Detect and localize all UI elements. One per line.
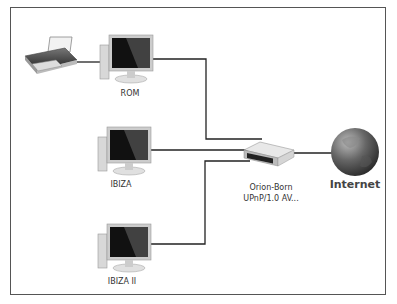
node-label-ibiza-ii: IBIZA II — [108, 277, 136, 286]
computer-icon-ibiza-ii[interactable] — [96, 222, 154, 274]
globe-icon[interactable] — [328, 126, 384, 178]
node-label-rom: ROM — [121, 89, 140, 98]
node-label-internet: Internet — [330, 178, 381, 191]
computer-icon-rom[interactable] — [98, 33, 156, 85]
printer-icon[interactable] — [20, 34, 80, 79]
node-label-router-line2: UPnP/1.0 AV... — [243, 194, 298, 203]
node-label-router-line1: Orion-Born — [250, 183, 293, 192]
node-label-ibiza: IBIZA — [110, 180, 131, 189]
router-icon[interactable] — [238, 140, 298, 168]
computer-icon-ibiza[interactable] — [96, 125, 154, 177]
